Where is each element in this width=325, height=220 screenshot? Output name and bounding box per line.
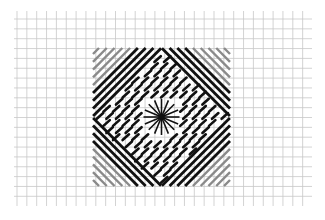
tent-stitch (126, 141, 132, 147)
tent-stitch (116, 127, 122, 133)
corner-stitch-outer-top-left (93, 48, 107, 62)
tent-stitch (154, 156, 160, 162)
tent-stitch (106, 113, 112, 119)
tent-stitch (97, 113, 103, 119)
tent-stitch (199, 92, 205, 98)
tent-stitch (154, 56, 160, 62)
tent-stitch (135, 113, 141, 119)
tent-stitch (116, 113, 122, 119)
tent-stitch (123, 106, 129, 112)
tent-stitch (135, 99, 141, 105)
tent-stitch (135, 127, 141, 133)
tent-stitch (212, 113, 218, 119)
tent-stitch (202, 127, 208, 133)
corner-stitch-inner-bottom-right (177, 133, 230, 186)
corner-stitch-outer-bottom-right (201, 157, 230, 186)
tent-stitch (126, 99, 132, 105)
tent-stitch (193, 127, 199, 133)
tent-stitch (123, 120, 129, 126)
tent-stitch (199, 106, 205, 112)
corner-stitch-outer-bottom-right (216, 172, 230, 186)
corner-stitch-outer-bottom-left (93, 149, 130, 186)
tent-stitch (135, 156, 141, 162)
tent-stitch (202, 99, 208, 105)
tent-stitch (103, 120, 109, 126)
corner-stitch-outer-top-left (93, 48, 130, 85)
center-star-stitch (144, 99, 180, 135)
tent-stitch (113, 120, 119, 126)
tent-stitch (145, 141, 151, 147)
corner-stitch-outer-top-right (201, 48, 230, 77)
tent-stitch (193, 99, 199, 105)
tent-stitch (171, 163, 177, 169)
tent-stitch (171, 92, 177, 98)
tent-stitch (106, 127, 112, 133)
tent-stitch (126, 113, 132, 119)
canvas-grid (14, 11, 312, 206)
tent-stitch (116, 99, 122, 105)
tent-stitch (180, 92, 186, 98)
tent-stitch (180, 120, 186, 126)
tent-stitch (209, 120, 215, 126)
tent-stitch (135, 141, 141, 147)
tent-stitch (199, 120, 205, 126)
tent-stitch (135, 85, 141, 91)
tent-stitch (190, 92, 196, 98)
stitch-chart-svg (0, 0, 325, 220)
tent-stitch (145, 85, 151, 91)
tent-stitch (161, 92, 167, 98)
tent-stitch (123, 92, 129, 98)
tent-stitch (209, 106, 215, 112)
tent-stitch (161, 163, 167, 169)
tent-stitch (193, 85, 199, 91)
tent-stitch (193, 141, 199, 147)
corner-stitch-outer-bottom-right (224, 180, 230, 186)
tent-stitch (161, 149, 167, 155)
tent-stitch (154, 170, 160, 176)
corner-stitch-outer-bottom-right (193, 149, 230, 186)
tent-stitch (154, 70, 160, 76)
tent-stitch (202, 113, 208, 119)
stitch-diagram: Needlepoint stitch chart (0, 0, 325, 220)
tent-stitch (154, 141, 160, 147)
tent-stitch (190, 106, 196, 112)
tent-stitch (180, 149, 186, 155)
tent-stitch (145, 70, 151, 76)
tent-stitch (180, 106, 186, 112)
tent-stitch (193, 113, 199, 119)
tent-stitch (190, 120, 196, 126)
star-center (159, 114, 165, 120)
corner-stitch-outer-bottom-left (93, 172, 107, 186)
corner-stitch-outer-bottom-left (93, 157, 122, 186)
tent-stitch (154, 85, 160, 91)
corner-stitch-outer-top-right (193, 48, 230, 85)
tent-stitch (145, 156, 151, 162)
tent-stitch (113, 106, 119, 112)
corner-stitch-outer-top-right (216, 48, 230, 62)
tent-stitch (222, 113, 228, 119)
tent-stitch (126, 127, 132, 133)
corner-stitch-outer-top-left (93, 48, 122, 77)
tent-stitch (171, 149, 177, 155)
tent-stitch (126, 85, 132, 91)
